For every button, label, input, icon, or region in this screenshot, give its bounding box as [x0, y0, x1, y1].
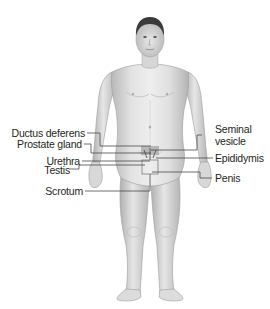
left-hand	[89, 162, 102, 188]
label-seminal-vesicle-line1: Seminal	[215, 124, 252, 135]
label-prostate-gland: Prostate gland	[17, 139, 82, 150]
legs	[117, 176, 183, 301]
anatomy-figure: Ductus deferens Prostate gland Urethra T…	[0, 0, 270, 309]
label-penis: Penis	[215, 173, 240, 184]
torso	[111, 64, 188, 186]
label-scrotum: Scrotum	[45, 186, 83, 197]
label-epididymis: Epididymis	[215, 153, 264, 164]
head	[136, 17, 164, 57]
right-hand	[198, 162, 211, 188]
label-testis: Testis	[44, 165, 70, 176]
label-seminal-vesicle-line2: vesicle	[215, 136, 246, 147]
